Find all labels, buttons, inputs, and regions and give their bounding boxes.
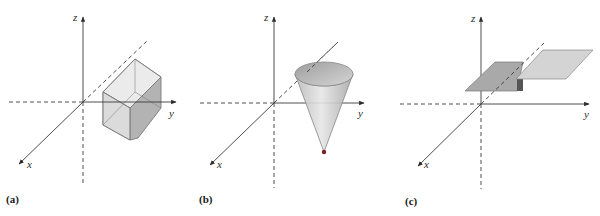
x-axis	[19, 102, 83, 164]
panel-caption-a: (a)	[6, 193, 19, 206]
panel-c: z y x (c)	[400, 12, 593, 208]
right-plate	[516, 50, 593, 79]
y-axis-label: y	[583, 108, 589, 120]
cone-apex-point	[322, 150, 326, 154]
stepped-plates	[465, 50, 593, 91]
panel-a: z y x (a)	[6, 11, 176, 206]
z-axis-label: z	[72, 11, 78, 23]
cone	[295, 62, 353, 154]
x-axis	[418, 104, 481, 166]
x-axis-label: x	[26, 158, 32, 170]
z-axis-label: z	[263, 11, 269, 23]
x-axis-label: x	[216, 158, 222, 170]
rectangular-box	[103, 59, 161, 140]
z-axis-label: z	[470, 12, 476, 24]
step-face	[517, 79, 523, 91]
y-axis-label: y	[357, 107, 363, 119]
panel-caption-b: (b)	[199, 193, 213, 206]
panel-b: z y x (b)	[199, 11, 364, 206]
figure-canvas: z y x (a) z y x (b) z	[0, 0, 600, 216]
x-axis-label: x	[423, 158, 429, 170]
left-plate	[465, 62, 523, 91]
y-axis-label: y	[168, 107, 174, 119]
x-axis	[210, 103, 274, 165]
panel-caption-c: (c)	[405, 195, 418, 208]
